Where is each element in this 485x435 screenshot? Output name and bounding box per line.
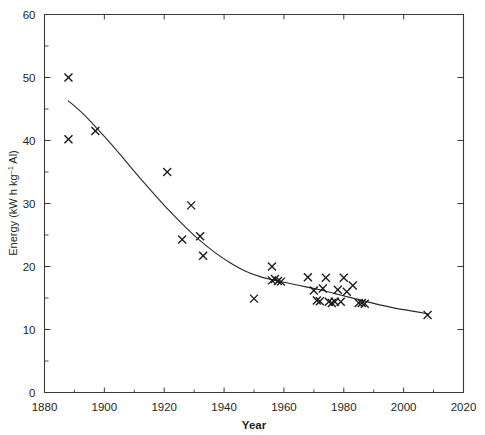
y-tick-label: 50 (23, 72, 36, 84)
x-tick-label: 1940 (211, 401, 237, 413)
y-axis-title-text: Energy (kW h kg–1 Al) (6, 150, 19, 256)
y-tick-label: 20 (23, 261, 36, 273)
x-tick-label: 1880 (32, 401, 58, 413)
x-axis-title-text: Year (242, 419, 267, 431)
x-tick-label: 1920 (151, 401, 177, 413)
x-tick-label: 2000 (391, 401, 417, 413)
x-tick-label: 1980 (331, 401, 357, 413)
x-tick-label: 2020 (451, 401, 477, 413)
y-tick-label: 30 (23, 198, 36, 210)
x-tick-label: 1900 (92, 401, 118, 413)
y-tick-label: 10 (23, 324, 36, 336)
y-axis-title: Energy (kW h kg–1 Al) (6, 150, 19, 256)
chart-container: 18801900192019401960198020002020 0102030… (0, 0, 485, 435)
y-tick-label: 0 (29, 387, 35, 399)
energy-vs-year-scatter-chart: 18801900192019401960198020002020 0102030… (0, 0, 485, 435)
y-tick-label: 40 (23, 135, 36, 147)
x-axis-title: Year (242, 419, 267, 431)
x-tick-label: 1960 (271, 401, 297, 413)
chart-background (0, 0, 485, 435)
y-tick-label: 60 (23, 9, 36, 21)
